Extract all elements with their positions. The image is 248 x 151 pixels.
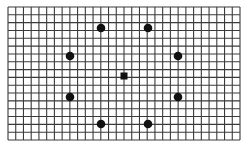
center-square-marker — [121, 73, 128, 80]
dot-bottom-left — [97, 120, 106, 129]
dot-upper-left — [66, 52, 75, 61]
grid-canvas — [0, 0, 248, 151]
grid-stimulus-diagram — [0, 0, 248, 151]
dot-top-right — [144, 24, 153, 33]
dot-lower-right — [174, 93, 183, 102]
dot-top-left — [97, 24, 106, 33]
center-fixation-square — [121, 73, 128, 80]
dot-bottom-right — [144, 120, 153, 129]
dot-upper-right — [174, 52, 183, 61]
dot-lower-left — [66, 93, 75, 102]
